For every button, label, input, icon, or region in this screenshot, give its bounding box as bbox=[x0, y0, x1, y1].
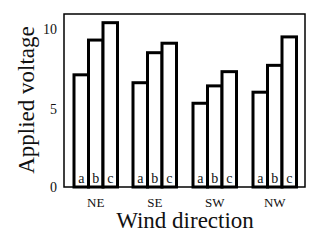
bar-letter-c: c bbox=[107, 171, 113, 186]
bar-nw-c bbox=[282, 37, 297, 187]
bar-letter-c: c bbox=[226, 171, 232, 186]
bar-letter-b: b bbox=[92, 171, 99, 186]
bar-letter-c: c bbox=[286, 171, 292, 186]
bar-letter-a: a bbox=[257, 171, 264, 186]
y-tick-labels: 0 5 10 bbox=[43, 22, 57, 195]
x-tick-ne: NE bbox=[87, 195, 104, 210]
bar-ne-c bbox=[103, 23, 118, 187]
bars bbox=[74, 23, 297, 187]
y-axis-label: Applied voltage bbox=[14, 26, 39, 174]
x-tick-nw: NW bbox=[264, 195, 286, 210]
bar-letter-a: a bbox=[78, 171, 85, 186]
bar-letter-labels: abcabcabcabc bbox=[78, 171, 292, 186]
bar-se-b bbox=[148, 53, 163, 187]
bar-letter-b: b bbox=[151, 171, 158, 186]
bar-chart: abcabcabcabc NESESWNW 0 5 10 Wind direct… bbox=[0, 0, 324, 237]
bar-letter-c: c bbox=[166, 171, 172, 186]
bar-nw-b bbox=[268, 65, 283, 187]
y-tick-0: 0 bbox=[50, 180, 57, 195]
bar-sw-c bbox=[222, 72, 237, 187]
bar-letter-a: a bbox=[137, 171, 144, 186]
y-tick-5: 5 bbox=[50, 102, 57, 117]
bar-ne-b bbox=[89, 40, 104, 187]
bar-letter-a: a bbox=[197, 171, 204, 186]
bar-se-c bbox=[162, 43, 177, 187]
x-axis-label: Wind direction bbox=[116, 208, 254, 233]
bar-letter-b: b bbox=[211, 171, 218, 186]
bar-letter-b: b bbox=[271, 171, 278, 186]
y-tick-10: 10 bbox=[43, 22, 57, 37]
